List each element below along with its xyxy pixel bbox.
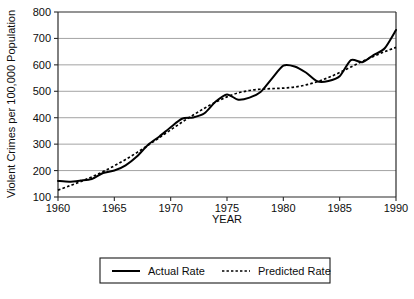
y-tick-label-200: 200 [33, 165, 51, 177]
y-tick-label-700: 700 [33, 32, 51, 44]
x-axis-ticks [58, 197, 396, 201]
legend-label-actual-rate: Actual Rate [148, 265, 205, 277]
chart-legend: Actual Rate Predicted Rate [100, 258, 331, 283]
y-gridlines [58, 38, 396, 170]
chart-figure: 100200300400500600700800 196019651970197… [0, 0, 414, 299]
y-tick-label-400: 400 [33, 112, 51, 124]
x-tick-label-1970: 1970 [158, 202, 182, 214]
x-axis-title: YEAR [212, 213, 242, 225]
y-axis-tick-labels: 100200300400500600700800 [33, 6, 51, 203]
x-tick-label-1990: 1990 [384, 202, 408, 214]
x-tick-label-1985: 1985 [327, 202, 351, 214]
y-tick-label-500: 500 [33, 85, 51, 97]
y-axis-title: Violent Crimes per 100,000 Population [5, 10, 17, 198]
violent-crime-rate-line-chart: 100200300400500600700800 196019651970197… [0, 0, 414, 299]
y-tick-label-600: 600 [33, 59, 51, 71]
series-line-actual-rate [58, 30, 396, 182]
y-tick-label-300: 300 [33, 138, 51, 150]
x-tick-label-1980: 1980 [271, 202, 295, 214]
x-tick-label-1965: 1965 [102, 202, 126, 214]
legend-label-predicted-rate: Predicted Rate [258, 265, 331, 277]
x-tick-label-1960: 1960 [46, 202, 70, 214]
y-tick-label-800: 800 [33, 6, 51, 18]
